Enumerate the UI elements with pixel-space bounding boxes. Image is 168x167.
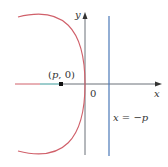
focus-point (59, 82, 63, 86)
directrix-label: x = −p (113, 112, 149, 123)
origin-label: 0 (90, 88, 96, 99)
x-axis-arrow-icon (155, 82, 162, 87)
parabola-diagram: y x 0 (p, 0) x = −p (0, 0, 168, 167)
focus-label: (p, 0) (48, 69, 75, 80)
y-axis-label: y (74, 9, 81, 20)
x-axis-label: x (154, 88, 160, 99)
y-axis-arrow-icon (83, 12, 88, 19)
